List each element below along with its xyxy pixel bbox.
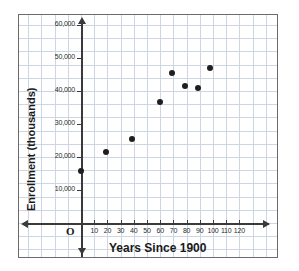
y-axis-tick-label: 30,000 — [35, 119, 75, 126]
grid-line-horizontal — [19, 170, 277, 171]
grid-line-horizontal — [19, 197, 277, 198]
x-axis-tick — [239, 220, 240, 224]
y-axis-tick-label: 60,000 — [35, 20, 75, 27]
x-axis-tick — [200, 220, 201, 224]
y-axis-tick — [77, 157, 81, 158]
x-axis — [27, 223, 269, 225]
grid-line-horizontal — [19, 144, 277, 145]
grid-line-horizontal — [19, 117, 277, 118]
origin-label: O — [66, 225, 75, 237]
grid-line-horizontal — [19, 38, 277, 39]
grid-line-horizontal — [19, 131, 277, 132]
y-axis-tick — [77, 124, 81, 125]
x-axis-tick — [147, 220, 148, 224]
x-axis-tick-label: 120 — [229, 227, 249, 234]
grid-line-horizontal — [19, 51, 277, 52]
y-axis-tick — [77, 25, 81, 26]
y-axis — [81, 23, 83, 257]
y-axis-tick-label: 10,000 — [35, 185, 75, 192]
x-axis-tick — [213, 220, 214, 224]
x-axis-arrow-right — [263, 220, 270, 228]
y-axis-tick — [77, 190, 81, 191]
data-point — [169, 70, 175, 76]
grid-line-horizontal — [19, 210, 277, 211]
y-axis-arrow-up — [78, 17, 86, 24]
grid-line-horizontal — [19, 78, 277, 79]
x-axis-tick — [173, 220, 174, 224]
grid-line-horizontal — [19, 65, 277, 66]
x-axis-tick — [187, 220, 188, 224]
x-axis-tick — [226, 220, 227, 224]
y-axis-arrow-down — [78, 248, 86, 255]
x-axis-tick — [121, 220, 122, 224]
x-axis-title: Years Since 1900 — [109, 241, 206, 255]
scatter-plot-figure: 10,00020,00030,00040,00050,00060,000 102… — [0, 0, 299, 271]
y-axis-tick — [77, 58, 81, 59]
graph-paper-frame: 10,00020,00030,00040,00050,00060,000 102… — [18, 14, 278, 258]
x-axis-tick — [160, 220, 161, 224]
y-axis-tick-label: 50,000 — [35, 53, 75, 60]
grid-line-horizontal — [19, 236, 277, 237]
y-axis-title: Enrollment (thousands) — [25, 88, 37, 211]
grid-line-horizontal — [19, 183, 277, 184]
x-axis-tick — [94, 220, 95, 224]
y-axis-tick — [77, 91, 81, 92]
y-axis-tick-label: 40,000 — [35, 86, 75, 93]
x-axis-tick — [134, 220, 135, 224]
x-axis-tick — [107, 220, 108, 224]
grid-line-horizontal — [19, 104, 277, 105]
y-axis-tick-label: 20,000 — [35, 152, 75, 159]
x-axis-arrow-left — [21, 220, 28, 228]
